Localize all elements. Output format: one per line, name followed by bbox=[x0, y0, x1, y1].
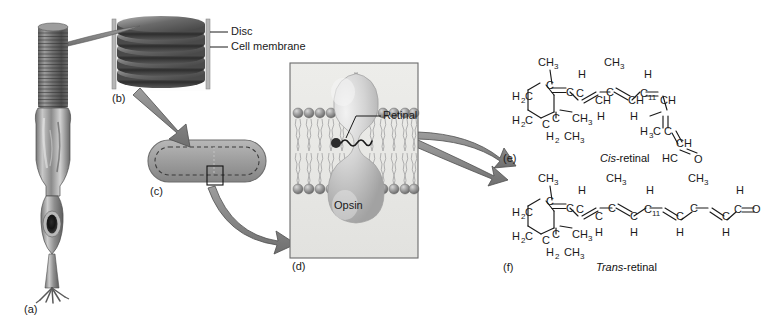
svg-text:HC: HC bbox=[662, 152, 678, 164]
svg-text:3: 3 bbox=[704, 178, 709, 187]
svg-text:3: 3 bbox=[554, 178, 559, 187]
svg-text:C: C bbox=[644, 203, 652, 215]
rod-axon bbox=[45, 254, 59, 288]
svg-text:H: H bbox=[644, 68, 652, 80]
figure-retinal-rod: CH3 C C H2C H2C C C CH3 H2 CH3 H C CH H … bbox=[0, 0, 768, 325]
rod-cell-illustration bbox=[35, 23, 70, 303]
svg-text:H: H bbox=[722, 226, 730, 238]
svg-text:C: C bbox=[546, 195, 554, 207]
trans-retinal-atom-labels: CH3 C C H2C H2C C C CH3 H2 CH3 H C C H C… bbox=[512, 172, 761, 261]
svg-text:C: C bbox=[676, 210, 684, 222]
cell-membrane-label: Cell membrane bbox=[231, 40, 306, 52]
svg-text:C: C bbox=[640, 87, 648, 99]
svg-text:H: H bbox=[630, 110, 638, 122]
svg-text:O: O bbox=[752, 203, 761, 215]
arrow-b-to-c bbox=[133, 88, 190, 147]
retinal-ring-marker bbox=[331, 138, 341, 148]
svg-text:CH: CH bbox=[538, 172, 554, 184]
svg-text:C: C bbox=[566, 202, 574, 214]
svg-text:3: 3 bbox=[588, 234, 593, 243]
cis-caption-italic: Cis bbox=[600, 152, 616, 164]
svg-text:H: H bbox=[595, 226, 603, 238]
trans-caption-italic: Trans bbox=[596, 261, 623, 273]
svg-text:C: C bbox=[606, 86, 614, 98]
svg-text:3: 3 bbox=[622, 178, 627, 187]
svg-text:C: C bbox=[734, 203, 742, 215]
panel-id-d: (d) bbox=[292, 260, 305, 272]
svg-text:CH: CH bbox=[676, 137, 692, 149]
svg-text:3: 3 bbox=[554, 62, 559, 71]
svg-text:H: H bbox=[546, 130, 554, 142]
rod-inner-segment bbox=[35, 108, 70, 196]
figure-canvas: CH3 C C H2C H2C C C CH3 H2 CH3 H C CH H … bbox=[0, 0, 768, 325]
svg-text:C: C bbox=[664, 125, 672, 137]
svg-text:H: H bbox=[630, 226, 638, 238]
trans-retinal-structure bbox=[528, 186, 754, 234]
svg-text:C: C bbox=[722, 210, 730, 222]
svg-text:C: C bbox=[552, 112, 560, 124]
arrow-c-to-d bbox=[208, 186, 296, 254]
svg-text:C: C bbox=[525, 230, 533, 242]
cis-caption-rest: -retinal bbox=[616, 152, 650, 164]
svg-text:CH: CH bbox=[564, 246, 580, 258]
svg-text:C: C bbox=[690, 202, 698, 214]
svg-text:H: H bbox=[546, 246, 554, 258]
svg-text:C: C bbox=[653, 125, 661, 137]
cis-retinal-caption: Cis-retinal bbox=[600, 152, 650, 164]
cis-retinal-atom-labels: CH3 C C H2C H2C C C CH3 H2 CH3 H C CH H … bbox=[512, 56, 703, 165]
svg-text:3: 3 bbox=[580, 136, 585, 145]
svg-text:H: H bbox=[736, 184, 744, 196]
panel-id-c: (c) bbox=[150, 185, 163, 197]
svg-text:H: H bbox=[512, 114, 520, 126]
svg-text:C: C bbox=[552, 228, 560, 240]
svg-text:H: H bbox=[676, 226, 684, 238]
svg-text:C: C bbox=[542, 234, 550, 246]
svg-text:C: C bbox=[546, 79, 554, 91]
svg-text:C: C bbox=[525, 90, 533, 102]
svg-text:H: H bbox=[512, 90, 520, 102]
svg-text:C: C bbox=[576, 87, 584, 99]
svg-text:CH: CH bbox=[606, 172, 622, 184]
single-disc-illustration bbox=[148, 140, 266, 185]
svg-text:11: 11 bbox=[652, 209, 661, 218]
cell-membrane-rail-left bbox=[112, 19, 116, 89]
svg-text:CH: CH bbox=[572, 228, 588, 240]
svg-text:C: C bbox=[576, 203, 584, 215]
svg-text:3: 3 bbox=[588, 118, 593, 127]
trans-caption-rest: -retinal bbox=[623, 261, 657, 273]
svg-text:O: O bbox=[694, 153, 703, 165]
panel-id-b: (b) bbox=[112, 92, 125, 104]
svg-text:11: 11 bbox=[648, 93, 657, 102]
trans-retinal-caption: Trans-retinal bbox=[596, 261, 657, 273]
svg-text:3: 3 bbox=[620, 62, 625, 71]
svg-text:2: 2 bbox=[555, 252, 560, 261]
svg-text:C: C bbox=[542, 118, 550, 130]
svg-text:H: H bbox=[597, 110, 605, 122]
retinal-label: Retinal bbox=[383, 109, 417, 121]
rod-nucleus bbox=[47, 215, 58, 234]
svg-text:H: H bbox=[640, 125, 648, 137]
svg-text:H: H bbox=[578, 184, 586, 196]
svg-text:CH: CH bbox=[572, 112, 588, 124]
svg-text:H: H bbox=[512, 230, 520, 242]
svg-text:C: C bbox=[525, 114, 533, 126]
svg-text:CH: CH bbox=[604, 56, 620, 68]
panel-id-e: (e) bbox=[503, 152, 516, 164]
arrow-d-to-f bbox=[416, 140, 508, 186]
svg-text:CH: CH bbox=[688, 172, 704, 184]
rod-outer-segment bbox=[38, 23, 68, 108]
svg-text:C: C bbox=[525, 206, 533, 218]
svg-text:C: C bbox=[608, 202, 616, 214]
disc-label: Disc bbox=[231, 25, 252, 37]
svg-text:CH: CH bbox=[660, 94, 676, 106]
opsin-label: Opsin bbox=[334, 199, 363, 211]
svg-text:H: H bbox=[578, 68, 586, 80]
svg-text:C: C bbox=[630, 210, 638, 222]
membrane-detail-panel bbox=[290, 63, 419, 258]
svg-text:C: C bbox=[595, 210, 603, 222]
panel-id-f: (f) bbox=[503, 261, 513, 273]
svg-text:H: H bbox=[512, 206, 520, 218]
svg-text:CH: CH bbox=[538, 56, 554, 68]
svg-text:3: 3 bbox=[580, 252, 585, 261]
cell-membrane-rail-right bbox=[206, 19, 210, 89]
